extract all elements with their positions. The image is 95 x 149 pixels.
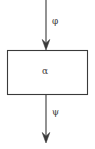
block-label: α [42,67,48,76]
block-diagram: φ α ψ [0,0,95,149]
input-signal-label: φ [52,17,58,26]
output-signal-label: ψ [52,108,59,117]
